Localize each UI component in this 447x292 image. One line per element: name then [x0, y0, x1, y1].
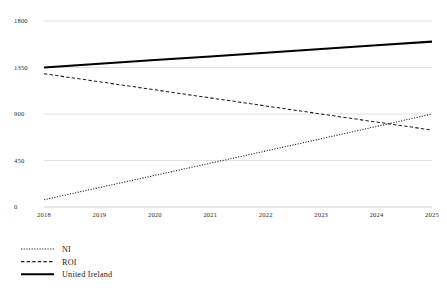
x-tick-label-2022: 2022	[259, 211, 273, 218]
y-axis-tick-labels: 045090013501800	[14, 17, 28, 210]
chart-legend: NIROIUnited Ireland	[21, 245, 112, 279]
series-line-united-ireland	[44, 42, 432, 68]
x-axis-tick-labels: 20182019202020212022202320242025	[37, 211, 439, 218]
x-tick-label-2025: 2025	[425, 211, 439, 218]
y-tick-label-0: 0	[14, 203, 18, 210]
series-line-ni	[44, 114, 432, 200]
series-line-roi	[44, 74, 432, 130]
legend-label-ni: NI	[62, 245, 71, 254]
x-tick-label-2021: 2021	[203, 211, 217, 218]
x-tick-label-2018: 2018	[37, 211, 51, 218]
y-tick-label-1800: 1800	[14, 17, 28, 24]
line-chart: 045090013501800 201820192020202120222023…	[0, 0, 447, 292]
series-layer	[44, 42, 432, 200]
x-tick-label-2024: 2024	[370, 211, 384, 218]
legend-label-united-ireland: United Ireland	[62, 270, 112, 279]
x-tick-label-2020: 2020	[148, 211, 162, 218]
legend-label-roi: ROI	[62, 258, 77, 267]
y-tick-label-900: 900	[14, 110, 25, 117]
x-tick-label-2019: 2019	[93, 211, 107, 218]
y-tick-label-1350: 1350	[14, 64, 28, 71]
gridlines	[44, 21, 432, 207]
chart-canvas: 045090013501800 201820192020202120222023…	[0, 0, 447, 292]
x-tick-label-2023: 2023	[314, 211, 328, 218]
y-tick-label-450: 450	[14, 157, 25, 164]
